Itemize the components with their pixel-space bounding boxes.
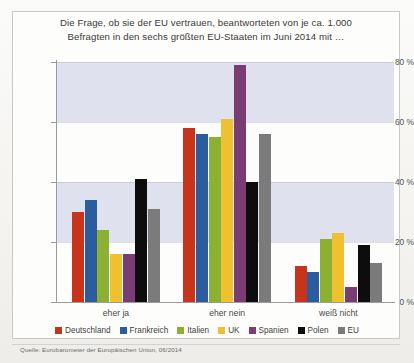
chart-title-line-1: Die Frage, ob sie der EU vertrauen, bean…	[26, 16, 386, 30]
y-tick-label-0: 0 %	[370, 297, 414, 307]
bar[interactable]	[183, 128, 195, 302]
legend-item[interactable]: Frankreich	[120, 326, 169, 335]
bar[interactable]	[123, 254, 135, 302]
legend-label: EU	[348, 326, 359, 335]
legend-item[interactable]: UK	[218, 326, 239, 335]
bar[interactable]	[234, 65, 246, 302]
legend-label: Frankreich	[130, 326, 169, 335]
chart-title: Die Frage, ob sie der EU vertrauen, bean…	[26, 16, 386, 44]
chart-title-line-2: Befragten in den sechs größten EU-Staate…	[26, 30, 386, 44]
bar[interactable]	[358, 245, 370, 302]
legend-label: UK	[228, 326, 239, 335]
bar[interactable]	[72, 212, 84, 302]
legend-label: Italien	[187, 326, 209, 335]
bar[interactable]	[135, 179, 147, 302]
bar[interactable]	[110, 254, 122, 302]
y-axis	[56, 60, 57, 303]
plot-area	[57, 62, 394, 302]
category-label-0: eher ja	[103, 308, 129, 318]
bar[interactable]	[332, 233, 344, 302]
y-tick-label-60: 60 %	[370, 117, 414, 127]
bar[interactable]	[246, 182, 258, 302]
bar[interactable]	[196, 134, 208, 302]
legend-swatch-icon	[249, 327, 256, 334]
bar[interactable]	[307, 272, 319, 302]
y-tick-mark-20	[51, 242, 56, 243]
legend-swatch-icon	[338, 327, 345, 334]
scanned-page: Die Frage, ob sie der EU vertrauen, bean…	[0, 0, 414, 363]
legend-label: Polen	[308, 326, 329, 335]
bar-group-1	[183, 62, 271, 302]
y-tick-mark-80	[51, 62, 56, 63]
legend-item[interactable]: Italien	[177, 326, 209, 335]
y-tick-label-80: 80 %	[370, 57, 414, 67]
legend-swatch-icon	[55, 327, 62, 334]
category-label-2: weiß nicht	[319, 308, 358, 318]
y-tick-mark-40	[51, 182, 56, 183]
legend-item[interactable]: Deutschland	[55, 326, 111, 335]
bar[interactable]	[209, 137, 221, 302]
bar[interactable]	[148, 209, 160, 302]
bar[interactable]	[85, 200, 97, 302]
legend-swatch-icon	[120, 327, 127, 334]
legend-swatch-icon	[218, 327, 225, 334]
legend-item[interactable]: Spanien	[249, 326, 289, 335]
category-label-1: eher nein	[209, 308, 245, 318]
legend-label: Deutschland	[65, 326, 111, 335]
y-tick-mark-0	[51, 302, 56, 303]
bar[interactable]	[97, 230, 109, 302]
bar[interactable]	[259, 134, 271, 302]
bar[interactable]	[295, 266, 307, 302]
legend-item[interactable]: Polen	[298, 326, 329, 335]
x-axis	[56, 302, 395, 303]
y-tick-mark-60	[51, 122, 56, 123]
bar[interactable]	[320, 239, 332, 302]
source-divider	[12, 344, 400, 345]
legend-swatch-icon	[177, 327, 184, 334]
bar[interactable]	[221, 119, 233, 302]
y-tick-label-40: 40 %	[370, 177, 414, 187]
legend-swatch-icon	[298, 327, 305, 334]
source-note: Quelle: Eurobarometer der Europäischen U…	[20, 346, 182, 353]
legend-item[interactable]: EU	[338, 326, 359, 335]
bar-group-0	[72, 62, 160, 302]
bar[interactable]	[345, 287, 357, 302]
y-tick-label-20: 20 %	[370, 237, 414, 247]
chart-legend: DeutschlandFrankreichItalienUKSpanienPol…	[14, 326, 400, 335]
legend-label: Spanien	[259, 326, 289, 335]
